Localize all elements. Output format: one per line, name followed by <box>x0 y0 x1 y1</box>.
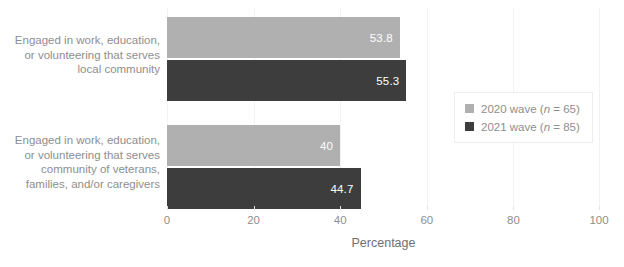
category-axis-labels: Engaged in work, education, or volunteer… <box>0 8 160 210</box>
legend-label-2021-suffix: = 85) <box>550 121 580 133</box>
tick-mark-icon <box>513 206 514 210</box>
gridline-60 <box>427 8 428 210</box>
bar-veterans-community-2020[interactable]: 40 <box>167 125 340 166</box>
x-tick-label-20: 20 <box>247 214 260 226</box>
legend: 2020 wave (n = 65) 2021 wave (n = 85) <box>454 92 593 143</box>
legend-label-2020-prefix: 2020 wave ( <box>481 103 544 115</box>
bar-chart: Engaged in work, education, or volunteer… <box>0 0 624 267</box>
legend-item-2020[interactable]: 2020 wave (n = 65) <box>465 101 580 116</box>
tick-mark-icon <box>340 206 341 210</box>
legend-label-2021: 2021 wave (n = 85) <box>481 121 580 133</box>
x-tick-label-80: 80 <box>507 214 520 226</box>
category-label-local-community: Engaged in work, education, or volunteer… <box>0 33 160 77</box>
legend-swatch-icon-2021 <box>465 122 474 131</box>
tick-mark-icon <box>599 206 600 210</box>
x-tick-label-100: 100 <box>589 214 608 226</box>
category-label-veterans-community: Engaged in work, education, or volunteer… <box>0 133 160 191</box>
legend-label-2021-prefix: 2021 wave ( <box>481 121 544 133</box>
legend-label-2020-suffix: = 65) <box>550 103 580 115</box>
bar-value-veterans-community-2020: 40 <box>320 140 333 152</box>
tick-mark-icon <box>427 206 428 210</box>
bar-value-local-community-2020: 53.8 <box>370 32 393 44</box>
gridline-100 <box>599 8 600 210</box>
legend-swatch-icon-2020 <box>465 104 474 113</box>
bar-value-veterans-community-2021: 44.7 <box>330 183 353 195</box>
tick-mark-icon <box>254 206 255 210</box>
x-tick-label-0: 0 <box>164 214 170 226</box>
legend-label-2020: 2020 wave (n = 65) <box>481 103 580 115</box>
x-tick-label-40: 40 <box>334 214 347 226</box>
bar-value-local-community-2021: 55.3 <box>376 75 399 87</box>
tick-mark-icon <box>167 206 168 210</box>
bar-local-community-2020[interactable]: 53.8 <box>167 17 400 58</box>
x-axis-title: Percentage <box>167 236 600 250</box>
legend-item-2021[interactable]: 2021 wave (n = 85) <box>465 119 580 134</box>
bar-local-community-2021[interactable]: 55.3 <box>167 60 406 101</box>
bar-veterans-community-2021[interactable]: 44.7 <box>167 168 361 209</box>
x-tick-label-60: 60 <box>420 214 433 226</box>
